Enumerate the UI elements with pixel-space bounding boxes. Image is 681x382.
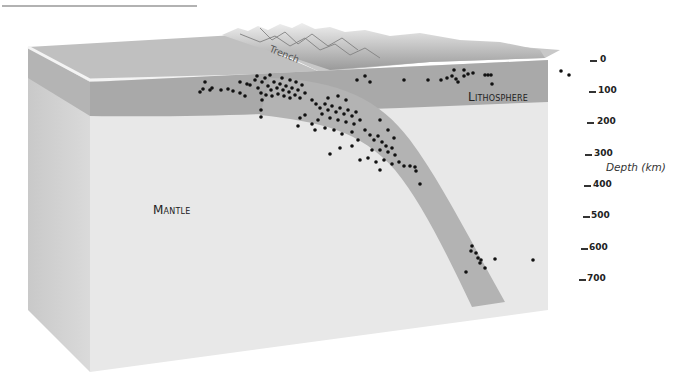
mantle-label: Mantle [153,203,190,217]
tick-mark [584,185,591,187]
tick-mark [583,216,590,218]
tick-label-600: 600 [589,242,608,252]
subduction-diagram: Trench Lithosphere Mantle 0 100 200 300 … [0,0,681,382]
left-side-face [28,47,90,372]
lithosphere-label: Lithosphere [468,90,528,104]
tick-label-300: 300 [594,148,613,158]
depth-axis-title: Depth (km) [606,161,666,173]
tick-label-200: 200 [597,116,616,126]
tick-mark [585,154,592,156]
tick-mark [579,279,586,281]
block-diagram-svg [0,0,681,382]
tick-mark [589,91,596,93]
tick-mark [590,60,597,62]
tick-mark [587,122,594,124]
tick-mark [581,248,588,250]
tick-label-100: 100 [598,85,617,95]
tick-label-400: 400 [593,179,612,189]
tick-label-500: 500 [591,210,610,220]
tick-label-700: 700 [587,273,606,283]
tick-label-0: 0 [600,54,606,64]
